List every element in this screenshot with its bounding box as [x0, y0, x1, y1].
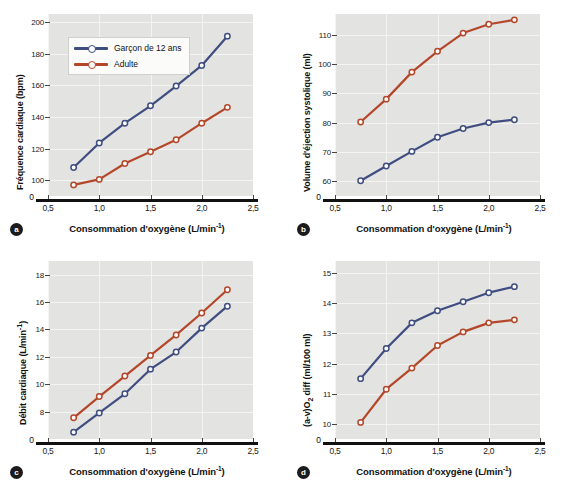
x-tick-label: 2,5 — [247, 203, 258, 213]
x-tick-mark — [202, 195, 203, 199]
x-tick-label: 1,5 — [432, 203, 443, 213]
y-tick-label: 200 — [28, 17, 44, 26]
panel-b-x-axis — [323, 199, 545, 202]
panel-c-x-axis — [36, 442, 258, 445]
x-tick-mark — [335, 195, 336, 199]
data-point — [97, 177, 102, 182]
data-point — [71, 415, 76, 420]
data-point — [199, 121, 204, 126]
data-point — [71, 429, 76, 434]
data-point — [122, 373, 127, 378]
data-point — [435, 308, 440, 313]
data-point — [512, 284, 517, 289]
y-tick-mark — [332, 181, 337, 182]
panel-b-plot-area — [335, 14, 540, 196]
data-point — [435, 49, 440, 54]
legend-item-adult: Adulte — [74, 59, 182, 69]
panel-d-x-axis — [323, 442, 545, 445]
series-layer — [335, 14, 540, 196]
data-point — [173, 83, 178, 88]
panel-a-zero-label: 0 — [29, 192, 34, 202]
y-tick-mark — [45, 54, 50, 55]
legend-label-boy: Garçon de 12 ans — [114, 43, 182, 53]
x-tick-mark — [438, 195, 439, 199]
x-tick-label: 2,0 — [483, 203, 494, 213]
panel-c-x-axis-label: Consommation d'oxygène (L/min-1) — [36, 465, 258, 477]
data-point — [512, 317, 517, 322]
data-point — [409, 149, 414, 154]
data-point — [384, 346, 389, 351]
data-point — [173, 349, 178, 354]
panel-b-x-axis-label: Consommation d'oxygène (L/min-1) — [323, 222, 545, 234]
series-line — [361, 320, 515, 423]
panel-c-y-label-tail: ) — [18, 321, 28, 324]
x-tick-mark — [151, 438, 152, 442]
x-tick-label: 2,0 — [196, 203, 207, 213]
x-tick-mark — [335, 438, 336, 442]
data-point — [486, 290, 491, 295]
data-point — [225, 33, 230, 38]
y-tick-mark — [332, 333, 337, 334]
x-tick-mark — [253, 438, 254, 442]
x-tick-label: 0,5 — [329, 446, 340, 456]
panel-c-y-label-text: Débit cardiaque (L/min — [18, 330, 28, 425]
y-tick-mark — [45, 302, 50, 303]
y-tick-mark — [45, 149, 50, 150]
series-line — [361, 20, 515, 122]
multi-panel-figure: Fréquence cardiaque (bpm) 0 100120140160… — [0, 0, 575, 494]
series-line — [361, 287, 515, 379]
panel-a-x-label-text: Consommation d'oxygène (L/min — [69, 223, 216, 234]
y-tick-label: 90 — [315, 89, 331, 98]
panel-d-zero-label: 0 — [316, 435, 321, 445]
y-tick-label: 16 — [28, 298, 44, 307]
y-tick-label: 13 — [315, 329, 331, 338]
panel-b-x-label-text: Consommation d'oxygène (L/min — [356, 223, 503, 234]
y-tick-mark — [332, 424, 337, 425]
panel-c-y-axis-label: Débit cardiaque (L/min-1) — [15, 321, 28, 425]
panel-a-x-label-tail: ) — [222, 223, 225, 234]
legend: Garçon de 12 ans Adulte — [68, 37, 190, 75]
data-point — [148, 149, 153, 154]
data-point — [384, 163, 389, 168]
legend-label-adult: Adulte — [114, 59, 138, 69]
x-tick-mark — [151, 195, 152, 199]
y-tick-mark — [45, 117, 50, 118]
data-point — [173, 137, 178, 142]
panel-badge-c: c — [10, 466, 23, 479]
data-point — [199, 310, 204, 315]
y-tick-label: 12 — [28, 352, 44, 361]
x-tick-mark — [438, 438, 439, 442]
data-point — [512, 117, 517, 122]
data-point — [173, 332, 178, 337]
x-tick-mark — [386, 195, 387, 199]
panel-b-y-axis-label: Volume d'éjection systolique (ml) — [302, 53, 312, 192]
panel-d-y-label-text: (a-v)O — [302, 402, 312, 427]
y-tick-mark — [332, 35, 337, 36]
data-point — [486, 22, 491, 27]
panel-a-x-axis-label: Consommation d'oxygène (L/min-1) — [36, 222, 258, 234]
panel-d-x-label-text: Consommation d'oxygène (L/min — [356, 466, 503, 477]
data-point — [199, 63, 204, 68]
y-tick-label: 180 — [28, 49, 44, 58]
y-tick-mark — [45, 412, 50, 413]
x-tick-label: 1,0 — [381, 446, 392, 456]
y-tick-mark — [332, 123, 337, 124]
legend-swatch-boy — [74, 44, 108, 53]
data-point — [435, 135, 440, 140]
x-tick-label: 2,5 — [247, 446, 258, 456]
y-tick-mark — [332, 273, 337, 274]
x-tick-mark — [540, 195, 541, 199]
y-tick-label: 100 — [28, 176, 44, 185]
y-tick-label: 11 — [315, 389, 331, 398]
panel-d-x-axis-label: Consommation d'oxygène (L/min-1) — [323, 465, 545, 477]
panel-c: Débit cardiaque (L/min-1) 0 81012141618 … — [0, 247, 287, 494]
y-tick-mark — [332, 394, 337, 395]
data-point — [460, 30, 465, 35]
y-tick-label: 15 — [315, 269, 331, 278]
x-tick-mark — [202, 438, 203, 442]
y-tick-label: 14 — [315, 299, 331, 308]
data-point — [409, 69, 414, 74]
data-point — [512, 17, 517, 22]
x-tick-label: 1,5 — [145, 203, 156, 213]
y-tick-label: 120 — [28, 144, 44, 153]
